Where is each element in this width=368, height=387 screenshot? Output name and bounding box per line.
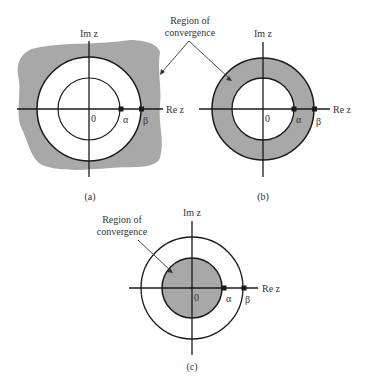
- panel-a-pole-alpha-marker: [119, 107, 124, 112]
- panel-b-pole-beta-marker: [312, 107, 317, 112]
- panel-a-alpha-label: α: [123, 114, 129, 125]
- panel-c: Im z Re z 0 α β (c) Region of convergenc…: [97, 207, 281, 373]
- top-roc-arrow-b: [189, 41, 230, 79]
- panel-b-caption: (b): [257, 191, 269, 203]
- panel-a-origin-label: 0: [91, 113, 96, 124]
- panel-b-alpha-label: α: [296, 114, 302, 125]
- top-roc-label-line1: Region of: [170, 15, 210, 26]
- panel-c-caption: (c): [186, 361, 197, 373]
- panel-b-beta-label: β: [316, 116, 321, 127]
- roc-diagram: Im z Re z 0 α β (a) Im z Re z 0 α β (b) …: [0, 0, 368, 387]
- panel-c-beta-label: β: [245, 294, 250, 305]
- panel-a-im-label: Im z: [80, 28, 99, 39]
- panel-b-origin-label: 0: [265, 113, 270, 124]
- top-roc-label-line2: convergence: [165, 27, 216, 38]
- top-roc-annotation: Region of convergence: [160, 15, 232, 81]
- panel-c-origin-label: 0: [194, 292, 199, 303]
- panel-b-im-label: Im z: [254, 28, 273, 39]
- panel-c-alpha-label: α: [226, 293, 232, 304]
- panel-a-pole-beta-marker: [139, 107, 144, 112]
- panel-c-re-label: Re z: [262, 283, 281, 294]
- panel-c-pole-beta-marker: [242, 286, 247, 291]
- panel-a-beta-label: β: [143, 115, 148, 126]
- panel-c-im-label: Im z: [183, 207, 202, 218]
- panel-b-re-label: Re z: [333, 104, 352, 115]
- c-roc-label-line2: convergence: [97, 226, 148, 237]
- c-roc-label-line1: Region of: [102, 214, 142, 225]
- panel-b-pole-alpha-marker: [292, 107, 297, 112]
- panel-a-re-label: Re z: [166, 104, 185, 115]
- top-roc-arrow-a: [162, 41, 189, 72]
- panel-c-pole-alpha-marker: [222, 286, 227, 291]
- panel-a: Im z Re z 0 α β (a): [17, 28, 185, 203]
- panel-a-caption: (a): [84, 191, 95, 203]
- panel-b: Im z Re z 0 α β (b): [199, 28, 352, 203]
